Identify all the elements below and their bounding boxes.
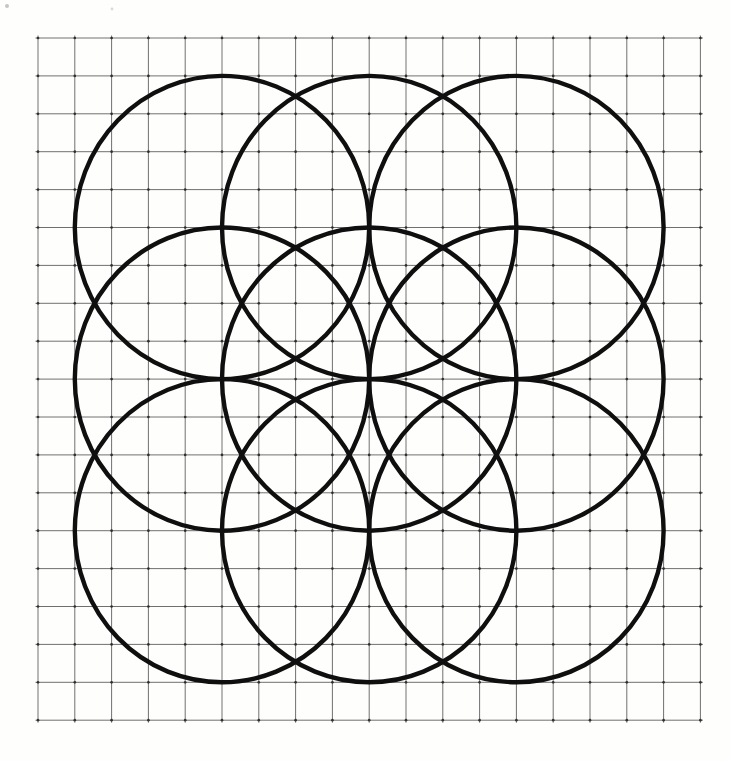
grid-node (110, 567, 113, 570)
grid-node (294, 302, 297, 305)
grid-node (368, 416, 371, 419)
grid-node (368, 188, 371, 191)
grid-node (331, 112, 334, 115)
grid-node (147, 37, 150, 40)
grid-node (257, 529, 260, 532)
grid-node (184, 416, 187, 419)
grid-node (699, 75, 702, 78)
grid-node (184, 150, 187, 153)
grid-node (625, 719, 628, 722)
grid-node (37, 567, 40, 570)
grid-node (552, 37, 555, 40)
grid-node (73, 37, 76, 40)
grid-node (552, 567, 555, 570)
grid-node (441, 226, 444, 229)
grid-node (73, 681, 76, 684)
grid-node (37, 188, 40, 191)
grid-node (625, 226, 628, 229)
grid-node (699, 605, 702, 608)
grid-node (515, 416, 518, 419)
grid-node (405, 37, 408, 40)
grid-node (184, 37, 187, 40)
grid-node (368, 605, 371, 608)
grid-node (73, 454, 76, 457)
grid-node (73, 567, 76, 570)
grid-node (625, 643, 628, 646)
grid-node (478, 264, 481, 267)
grid-node (662, 491, 665, 494)
grid-node (441, 605, 444, 608)
grid-node (294, 37, 297, 40)
grid-node (331, 226, 334, 229)
grid-node (699, 150, 702, 153)
grid-node (478, 416, 481, 419)
grid-node (699, 491, 702, 494)
grid-node (294, 454, 297, 457)
grid-node (73, 491, 76, 494)
grid-node (662, 37, 665, 40)
grid-node (73, 719, 76, 722)
grid-node (257, 416, 260, 419)
grid-node (294, 567, 297, 570)
grid-node (257, 454, 260, 457)
grid-node (331, 340, 334, 343)
grid-node (110, 188, 113, 191)
grid-node (147, 340, 150, 343)
grid-node (441, 37, 444, 40)
grid-node (441, 340, 444, 343)
grid-node (515, 302, 518, 305)
grid-node (699, 529, 702, 532)
grid-node (699, 454, 702, 457)
grid-node (478, 226, 481, 229)
grid-node (405, 302, 408, 305)
grid-node (368, 719, 371, 722)
grid-node (73, 340, 76, 343)
grid-node (147, 75, 150, 78)
grid-node (699, 37, 702, 40)
grid-node (589, 264, 592, 267)
grid-node (662, 340, 665, 343)
grid-node (184, 605, 187, 608)
grid-node (405, 112, 408, 115)
grid-node (37, 264, 40, 267)
grid-node (589, 416, 592, 419)
grid-node (294, 112, 297, 115)
grid-node (441, 454, 444, 457)
grid-node (331, 454, 334, 457)
grid-node (221, 188, 224, 191)
grid-node (405, 719, 408, 722)
graph-paper-figure (0, 0, 731, 761)
grid-node (441, 416, 444, 419)
grid-node (147, 643, 150, 646)
grid-node (441, 491, 444, 494)
grid-node (589, 226, 592, 229)
grid-node (368, 643, 371, 646)
grid-node (294, 681, 297, 684)
grid-node (552, 681, 555, 684)
grid-node (331, 75, 334, 78)
grid-node (441, 112, 444, 115)
grid-node (184, 529, 187, 532)
grid-node (662, 454, 665, 457)
grid-node (257, 264, 260, 267)
grid-node (331, 150, 334, 153)
grid-node (221, 643, 224, 646)
grid-node (73, 416, 76, 419)
grid-node (478, 719, 481, 722)
grid-node (37, 302, 40, 305)
grid-node (699, 226, 702, 229)
grid-node (405, 188, 408, 191)
grid-node (515, 491, 518, 494)
grid-node (405, 340, 408, 343)
grid-node (294, 416, 297, 419)
grid-node (331, 719, 334, 722)
grid-node (515, 340, 518, 343)
grid-node (515, 150, 518, 153)
grid-node (478, 340, 481, 343)
grid-node (37, 150, 40, 153)
grid-node (257, 150, 260, 153)
grid-node (294, 491, 297, 494)
grid-node (662, 681, 665, 684)
grid-node (552, 529, 555, 532)
grid-node (699, 681, 702, 684)
